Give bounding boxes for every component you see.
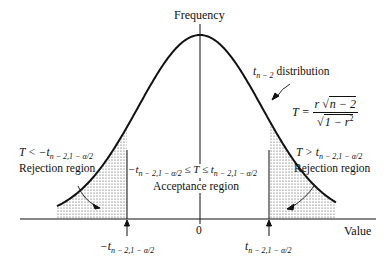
left-critical-value: −tn − 2,1 − α/2 (100, 241, 154, 255)
statistic-lhs: T = (292, 105, 310, 119)
curve-name-label: tn − 2 distribution (253, 66, 330, 80)
frequency-axis-label: Frequency (174, 9, 225, 21)
acceptance-left: −t (128, 163, 138, 175)
right-condition-lhs: T > (296, 146, 313, 158)
right-critical-arrow (267, 220, 272, 236)
right-critical-sub: n − 2,1 − α/2 (248, 246, 291, 255)
acceptance-right-sub: n − 2,1 − α/2 (214, 169, 257, 178)
left-condition-sub: n − 2,1 − α/2 (50, 152, 93, 161)
left-critical-arrow (125, 220, 130, 236)
left-critical-var: −t (100, 240, 111, 252)
left-critical-sub: n − 2,1 − α/2 (111, 246, 154, 255)
statistic-fraction: r √n − 2 √1 − r2 (313, 98, 358, 128)
statistic-den-sqrt: 1 − r (325, 115, 350, 129)
acceptance-left-sub: n − 2,1 − α/2 (138, 169, 181, 178)
left-condition-rhs: −t (39, 146, 50, 158)
acceptance-label: Acceptance region (153, 181, 239, 193)
right-rejection-condition: T > tn − 2,1 − α/2 (296, 147, 362, 161)
right-rejection-label: Rejection region (294, 163, 370, 175)
curve-pointer-arrow (272, 84, 290, 100)
left-rejection-label: Rejection region (19, 163, 95, 175)
left-condition-lhs: T < (19, 146, 36, 158)
origin-tick-label: 0 (196, 225, 202, 237)
statistic-den-sqrt-wrap: 1 − r2 (324, 114, 354, 129)
statistic-num-sqrt: n − 2 (329, 96, 356, 111)
acceptance-condition: −tn − 2,1 − α/2 ≤ T ≤ tn − 2,1 − α/2 (128, 164, 257, 178)
statistic-num-r: r (315, 97, 320, 111)
distribution-diagram (0, 0, 389, 264)
acceptance-middle: ≤ T ≤ (184, 163, 208, 175)
curve-name-sub: n − 2 (256, 71, 273, 80)
right-condition-sub: n − 2,1 − α/2 (319, 152, 362, 161)
test-statistic-formula: T = r √n − 2 √1 − r2 (292, 98, 358, 128)
right-critical-value: tn − 2,1 − α/2 (245, 241, 291, 255)
curve-name-text: distribution (276, 65, 329, 77)
statistic-den-sup: 2 (349, 114, 353, 123)
left-rejection-condition: T < −tn − 2,1 − α/2 (19, 147, 93, 161)
value-axis-label: Value (344, 225, 371, 237)
